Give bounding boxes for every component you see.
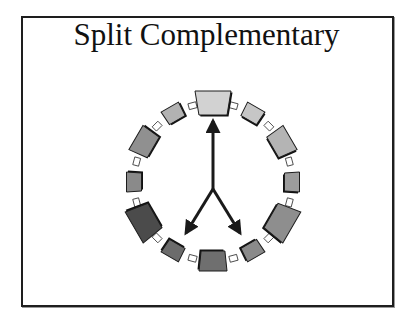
wheel-connector	[285, 198, 293, 207]
wheel-connector	[133, 157, 141, 166]
wheel-connector	[264, 121, 274, 131]
wheel-segment-210	[160, 237, 187, 262]
arrow-down-left-icon	[186, 189, 213, 233]
wheel-segment-0	[195, 91, 233, 117]
split-complement-arrows	[186, 121, 240, 233]
wheel-segment-30	[239, 102, 266, 127]
wheel-connector	[188, 254, 197, 262]
wheel-segment-150	[238, 238, 265, 263]
wheel-segment-330	[161, 101, 188, 126]
wheel-segment-270	[127, 171, 144, 193]
wheel-connector	[285, 157, 293, 166]
wheel-connector	[188, 102, 197, 110]
wheel-connector	[229, 254, 238, 262]
wheel-segment-90	[283, 172, 300, 194]
arrow-down-right-icon	[213, 189, 240, 233]
color-wheel-diagram	[0, 0, 413, 322]
wheel-segment-180	[198, 250, 228, 272]
wheel-connector	[152, 121, 162, 131]
